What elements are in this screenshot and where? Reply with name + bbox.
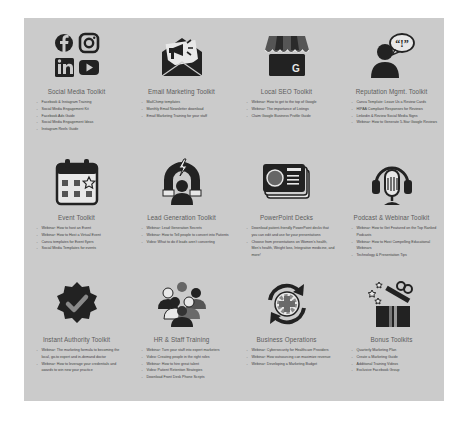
toolkit-title: Reputation Mgmt. Toolkit (356, 88, 428, 95)
toolkit-item: Webinar: How to host an Event (37, 225, 125, 232)
toolkit-item: Webinar: How to Host a Virtual Event (37, 232, 125, 239)
toolkit-title: PowerPoint Decks (260, 214, 313, 221)
toolkit-title: Bonus Toolkits (371, 336, 413, 343)
toolkit-item: Download Front Desk Phone Scripts (142, 374, 230, 381)
toolkit-item: Quarterly Marketing Plan (352, 347, 440, 354)
toolkit-items: Webinar: Cybersecurity for Healthcare Pr… (235, 347, 339, 367)
toolkit-podcast-webinar[interactable]: Podcast & Webinar Toolkit Webinar: How t… (339, 146, 444, 268)
toolkit-item: Video: Creating people in the right role… (142, 354, 230, 361)
toolkit-item: Social Media Engagement Kit (37, 106, 125, 113)
toolkit-title: Email Marketing Toolkit (148, 88, 215, 95)
toolkit-instant-authority[interactable]: Instant Authority Toolkit Webinar: The m… (24, 268, 129, 401)
toolkit-item: Webinar: The importance of Listings (247, 106, 335, 113)
toolkit-items: Webinar: Turn your staff into expert mar… (130, 347, 234, 381)
toolkit-items: Webinar: How to host an Event Webinar: H… (25, 225, 129, 252)
toolkit-item: Webinar: How to get to the top of Google (247, 99, 335, 106)
toolkit-event[interactable]: Event Toolkit Webinar: How to host an Ev… (24, 146, 129, 268)
verified-badge-icon (47, 278, 107, 330)
toolkit-item: Webinar: How to Get Featured on the Top … (352, 225, 440, 239)
cycle-operations-icon (257, 278, 317, 330)
toolkits-panel: Social Media Toolkit Facebook & Instagra… (24, 18, 444, 401)
toolkit-bonus[interactable]: Bonus Toolkits Quarterly Marketing Plan … (339, 268, 444, 401)
toolkit-social-media[interactable]: Social Media Toolkit Facebook & Instagra… (24, 18, 129, 146)
social-media-icon (47, 30, 107, 82)
toolkit-item: Webinar: How outsourcing can maximize re… (247, 354, 335, 361)
toolkit-lead-generation[interactable]: Lead Generation Toolkit Webinar: Lead Ge… (129, 146, 234, 268)
toolkit-item: Facebook Ads Guide (37, 113, 125, 120)
toolkit-item: Webinar: How to Tell people to convert i… (142, 232, 230, 239)
toolkit-title: Event Toolkit (58, 214, 95, 221)
toolkit-item: Webinar: How to leverage your credential… (37, 361, 125, 375)
toolkit-item: Webinar: The marketing formula to becomi… (37, 347, 125, 361)
toolkit-items: Download patient-friendly PowerPoint dec… (235, 225, 339, 259)
toolkit-email-marketing[interactable]: Email Marketing Toolkit MailChimp templa… (129, 18, 234, 146)
toolkit-item: Video: What to do if leads aren't conver… (142, 239, 230, 246)
toolkit-item: Video: Patient Retention Strategies (142, 367, 230, 374)
toolkit-items: Quarterly Marketing Plan Create a Market… (340, 347, 444, 374)
toolkit-title: Local SEO Toolkit (261, 88, 312, 95)
toolkit-item: Canva templates for Event flyers (37, 239, 125, 246)
toolkit-items: Webinar: How to Get Featured on the Top … (340, 225, 444, 259)
toolkit-hr-staff-training[interactable]: HR & Staff Training Webinar: Turn your s… (129, 268, 234, 401)
toolkit-item: Email Marketing Training for your staff (142, 113, 230, 120)
toolkit-item: Exclusive Facebook Group (352, 367, 440, 374)
toolkit-title: HR & Staff Training (154, 336, 210, 343)
toolkit-item: Linkedin & Review Social Media Signs (352, 113, 440, 120)
svg-text:G: G (292, 63, 300, 74)
toolkit-reputation-mgmt[interactable]: “!” Reputation Mgmt. Toolkit Canva Templ… (339, 18, 444, 146)
envelope-megaphone-icon (152, 30, 212, 82)
toolkit-item: Claim Google Business Profile Guide (247, 113, 335, 120)
toolkit-item: Monthly Email Newsletter download (142, 106, 230, 113)
toolkit-item: Webinar: Developing a Marketing Budget (247, 361, 335, 368)
toolkit-item: Download patient-friendly PowerPoint dec… (247, 225, 335, 239)
microphone-headphones-icon (362, 156, 422, 208)
toolkit-item: Additional Training Videos (352, 361, 440, 368)
team-group-icon (152, 278, 212, 330)
toolkit-items: Webinar: Lead Generation Secrets Webinar… (130, 225, 234, 245)
toolkit-item: Webinar: How to Generate 5-Star Google R… (352, 119, 440, 126)
toolkit-title: Business Operations (256, 336, 316, 343)
toolkit-item: Choose from presentations on Women's hea… (247, 239, 335, 259)
toolkit-item: Create a Marketing Guide (352, 354, 440, 361)
toolkit-item: Technology & Presentation Tips (352, 252, 440, 259)
toolkit-item: Webinar: How to hire great talent (142, 361, 230, 368)
toolkit-local-seo[interactable]: G Local SEO Toolkit Webinar: How to get … (234, 18, 339, 146)
toolkit-item: HIPAA Compliant Responses for Reviews (352, 106, 440, 113)
toolkit-item: Webinar: Lead Generation Secrets (142, 225, 230, 232)
toolkit-title: Podcast & Webinar Toolkit (354, 214, 430, 221)
toolkit-title: Social Media Toolkit (48, 88, 106, 95)
toolkit-item: Facebook & Instagram Training (37, 99, 125, 106)
person-speech-bubble-icon: “!” (362, 30, 422, 82)
toolkit-powerpoint-decks[interactable]: PowerPoint Decks Download patient-friend… (234, 146, 339, 268)
toolkit-item: Canva Template: Leave Us a Review Cards (352, 99, 440, 106)
toolkit-item: Instagram Reels Guide (37, 126, 125, 133)
presentation-cards-icon (257, 156, 317, 208)
toolkit-item: Webinar: Turn your staff into expert mar… (142, 347, 230, 354)
toolkit-items: Webinar: The marketing formula to becomi… (25, 347, 129, 374)
toolkit-title: Lead Generation Toolkit (147, 214, 216, 221)
toolkit-item: MailChimp templates (142, 99, 230, 106)
toolkit-items: Canva Template: Leave Us a Review Cards … (340, 99, 444, 126)
toolkit-item: Social Media Engagement Ideas (37, 119, 125, 126)
toolkit-item: Webinar: Cybersecurity for Healthcare Pr… (247, 347, 335, 354)
magnet-person-icon (152, 156, 212, 208)
toolkit-item: Social Media Templates for events (37, 245, 125, 252)
gift-box-icon (362, 278, 422, 330)
toolkit-title: Instant Authority Toolkit (43, 336, 110, 343)
toolkit-items: Webinar: How to get to the top of Google… (235, 99, 339, 119)
toolkits-grid: Social Media Toolkit Facebook & Instagra… (24, 18, 444, 401)
toolkit-items: Facebook & Instagram Training Social Med… (25, 99, 129, 133)
google-storefront-icon: G (257, 30, 317, 82)
toolkit-business-operations[interactable]: Business Operations Webinar: Cybersecuri… (234, 268, 339, 401)
calendar-star-icon (47, 156, 107, 208)
svg-text:“!”: “!” (395, 38, 408, 49)
toolkit-items: MailChimp templates Monthly Email Newsle… (130, 99, 234, 119)
toolkit-item: Webinar: How to Host Compelling Educatio… (352, 239, 440, 253)
